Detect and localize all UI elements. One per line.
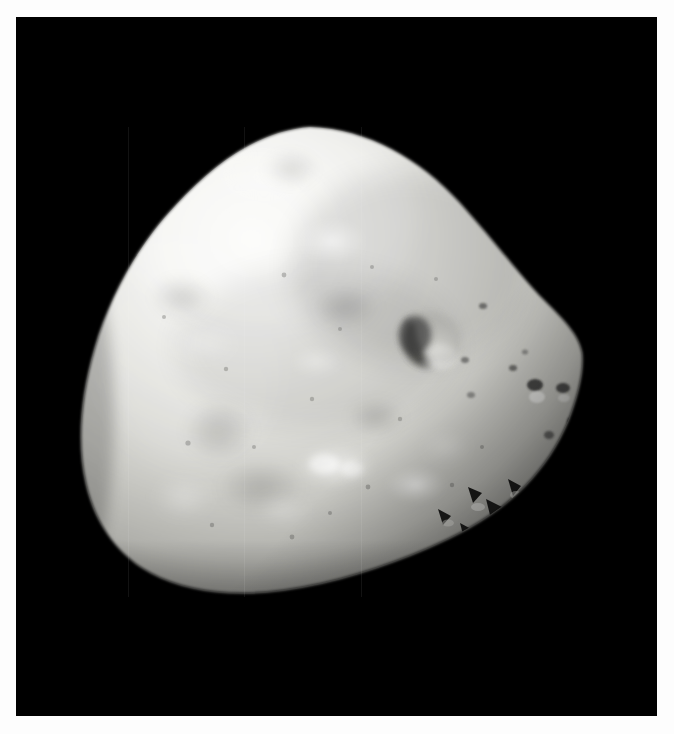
moon-image bbox=[16, 17, 657, 716]
deimos-render bbox=[16, 17, 657, 716]
photo-page: Deimos Deimos lower-right upper-left bbox=[0, 0, 674, 734]
photograph-frame bbox=[16, 17, 657, 716]
left-limb-darkening bbox=[34, 247, 114, 587]
surface-detail bbox=[16, 17, 657, 716]
